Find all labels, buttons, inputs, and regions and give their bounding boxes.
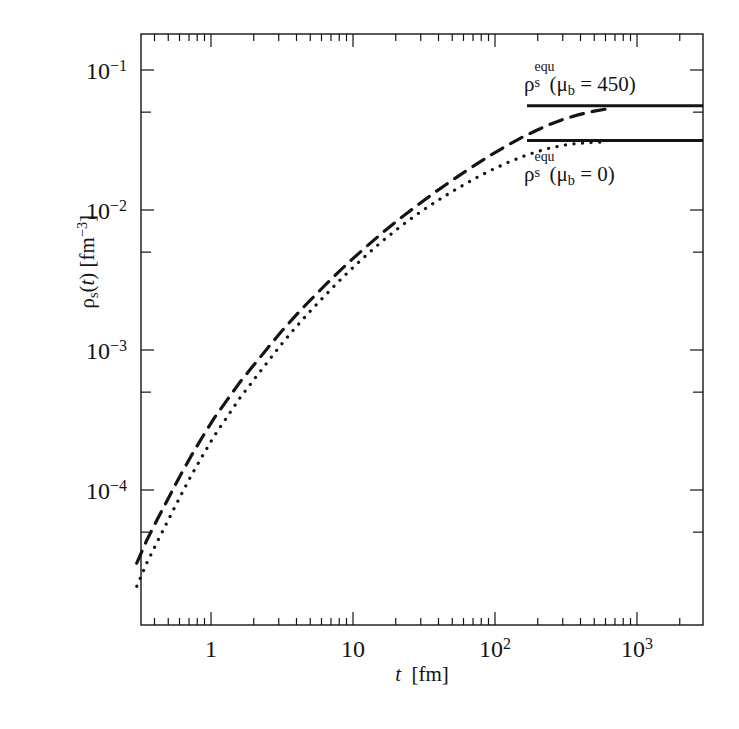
plot-frame (141, 34, 703, 625)
annotation-equilibrium-0: ρequs(μb = 0) (524, 160, 615, 189)
svg-text:10: 10 (341, 636, 365, 662)
annotation-sub-0: s (534, 164, 540, 181)
x-axis-label-unit: [fm] (412, 662, 449, 686)
annotation-sub-450: s (534, 74, 540, 91)
svg-text:10−1: 10−1 (86, 57, 127, 85)
annotation-sup-450: equ (534, 59, 554, 75)
annotation-rho-0: ρ (524, 162, 534, 186)
annotation-rho-450: ρ (524, 72, 534, 96)
annotation-supsub-450: equs (534, 70, 549, 91)
x-axis-label: t [fm] (141, 662, 703, 687)
figure-container: 11010210310−110−210−310−4 ρs(t) [fm−3] t… (0, 0, 739, 729)
annotation-supsub-0: equs (534, 160, 549, 181)
axis-tick-labels: 11010210310−110−210−310−4 (86, 57, 653, 663)
svg-text:1: 1 (205, 636, 217, 662)
svg-text:102: 102 (479, 635, 511, 663)
svg-text:103: 103 (621, 635, 653, 663)
y-axis-label-text: ρs(t) [fm−3] (75, 215, 99, 309)
annotation-sup-0: equ (534, 149, 554, 165)
y-axis-label: ρs(t) [fm−3] (74, 182, 102, 342)
axis-ticks (141, 34, 703, 625)
annotation-equilibrium-450: ρequs(μb = 450) (524, 70, 636, 99)
data-series (137, 106, 703, 587)
log-log-plot: 11010210310−110−210−310−4 (0, 0, 739, 729)
svg-text:10−4: 10−4 (86, 477, 127, 505)
annotation-arg-0: (μb = 0) (550, 162, 615, 186)
annotation-arg-450: (μb = 450) (550, 72, 636, 96)
x-axis-label-var: t (395, 662, 401, 686)
